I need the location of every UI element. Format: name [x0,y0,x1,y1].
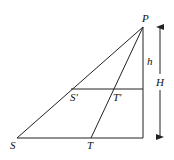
label-S-prime: S′ [70,91,79,103]
label-T-prime: T′ [113,91,122,103]
label-T: T [87,139,94,151]
label-S: S [10,139,16,151]
label-h: h [147,55,153,67]
similar-triangles-diagram: P S T S′ T′ h H [0,0,174,160]
label-P: P [141,12,149,24]
line-PT [91,27,143,138]
label-H: H [155,76,165,88]
line-PS [17,27,143,138]
